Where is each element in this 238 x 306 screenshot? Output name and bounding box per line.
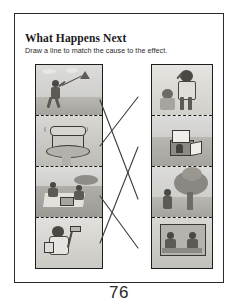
effect-panel-painted-doghouse[interactable] — [152, 116, 212, 167]
cause-column: ) ( — [35, 64, 103, 269]
paint-bucket — [44, 242, 54, 253]
cause-panel-ringing-telephone[interactable]: ) ( — [36, 116, 102, 167]
worksheet-frame: What Happens Next Draw a line to match t… — [14, 13, 224, 283]
cause-panel-boy-flying-kite[interactable] — [36, 65, 102, 116]
effect-panel-boy-answering-phone[interactable] — [152, 65, 212, 116]
effect-panel-picnic-table[interactable] — [152, 218, 212, 268]
heading-block: What Happens Next Draw a line to match t… — [25, 32, 217, 55]
effect-panel-kite-in-tree[interactable] — [152, 167, 212, 218]
effect-column — [151, 64, 213, 269]
table-top — [162, 248, 202, 253]
picnic-basket — [60, 197, 74, 206]
cause-panel-girl-with-paint[interactable] — [36, 218, 102, 268]
tree-trunk — [187, 192, 193, 210]
doghouse-roof — [172, 130, 190, 143]
cause-panel-children-picnic[interactable] — [36, 167, 102, 218]
paint-roller-head — [70, 226, 81, 232]
page-number: 76 — [0, 283, 238, 303]
instruction-text: Draw a line to match the cause to the ef… — [25, 46, 217, 55]
page-title: What Happens Next — [25, 32, 217, 44]
telephone-handset — [50, 126, 86, 136]
